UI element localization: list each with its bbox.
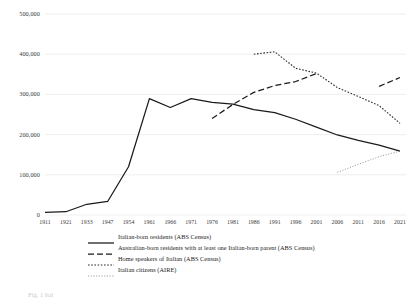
x-tick-label: 2021 <box>388 219 412 225</box>
chart-figure: 0100,000200,000300,000400,000500,000 191… <box>0 0 414 299</box>
figure-caption: Fig. 1 Ital <box>28 291 53 299</box>
legend-label: Italian citizens (AIRE) <box>118 266 177 273</box>
legend-swatch-solid <box>88 233 114 241</box>
series-line-0 <box>45 99 400 213</box>
y-tick-label: 0 <box>0 211 40 218</box>
legend-label: Italian-born residents (ABS Census) <box>118 233 211 240</box>
legend-swatch-dashed <box>88 244 114 252</box>
legend-swatch-dotted-dense <box>88 255 114 263</box>
legend-label: Australian-born residents with at least … <box>118 244 315 251</box>
y-tick-label: 300,000 <box>0 90 40 97</box>
y-tick-label: 200,000 <box>0 131 40 138</box>
legend-item: Italian-born residents (ABS Census) <box>0 231 414 242</box>
legend-item: Home speakers of Italian (ABS Census) <box>0 253 414 264</box>
legend-swatch-dotted-fine <box>88 266 114 274</box>
legend-label: Home speakers of Italian (ABS Census) <box>118 255 221 262</box>
gridlines <box>45 14 406 215</box>
y-tick-label: 100,000 <box>0 171 40 178</box>
series-line-3 <box>337 151 400 172</box>
series-line-1 <box>379 78 400 87</box>
data-series-group <box>45 52 400 213</box>
y-tick-label: 500,000 <box>0 10 40 17</box>
legend-item: Australian-born residents with at least … <box>0 242 414 253</box>
legend-item: Italian citizens (AIRE) <box>0 264 414 275</box>
chart-legend: Italian-born residents (ABS Census)Austr… <box>0 231 414 275</box>
y-tick-label: 400,000 <box>0 50 40 57</box>
